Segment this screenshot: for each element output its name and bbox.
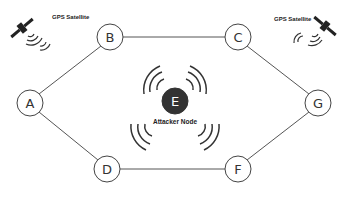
- attacker-node-label: Attacker Node: [153, 118, 197, 125]
- svg-text:D: D: [102, 162, 112, 177]
- svg-text:G: G: [313, 96, 323, 111]
- gps-satellite-right-label: GPS Satellite: [274, 16, 312, 22]
- edge-a-d: [39, 112, 98, 160]
- node-c: C: [225, 24, 251, 50]
- svg-text:C: C: [233, 30, 242, 45]
- gps-satellite-left-label: GPS Satellite: [52, 14, 90, 20]
- node-b: B: [97, 24, 123, 50]
- node-d: D: [94, 156, 120, 182]
- edge-c-g: [247, 46, 309, 94]
- node-g: G: [305, 90, 331, 116]
- network-diagram: GPS Satellite GPS Satellite A B C D F G: [0, 0, 352, 198]
- edge-a-b: [39, 46, 101, 94]
- svg-text:F: F: [234, 162, 241, 177]
- svg-text:B: B: [106, 30, 115, 45]
- edge-f-g: [247, 112, 309, 160]
- node-e-attacker: E: [162, 88, 188, 114]
- node-a: A: [17, 90, 43, 116]
- gps-satellite-right-icon: [311, 13, 339, 39]
- svg-text:E: E: [171, 94, 179, 109]
- node-f: F: [225, 156, 251, 182]
- svg-text:A: A: [26, 96, 35, 111]
- gps-signal-left-icon: [26, 34, 50, 50]
- gps-signal-right-icon: [294, 33, 322, 46]
